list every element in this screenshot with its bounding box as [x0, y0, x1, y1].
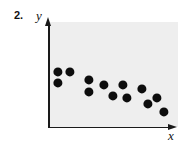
exercise-number-label: 2. — [14, 9, 23, 21]
x-axis-label: x — [168, 128, 174, 144]
y-axis-line — [48, 24, 50, 128]
y-axis-arrow-icon — [45, 17, 51, 26]
scatter-plot-figure: 2. y x — [0, 0, 192, 145]
y-axis-label: y — [36, 8, 42, 24]
x-axis-line — [48, 127, 170, 129]
